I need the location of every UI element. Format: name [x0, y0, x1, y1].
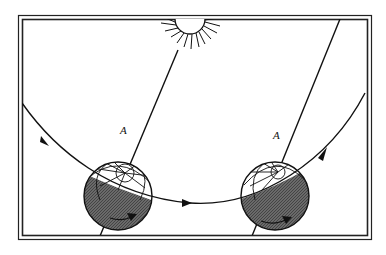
sun-icon — [161, 17, 220, 49]
orbit-arrow-bottom — [182, 199, 192, 207]
diagram-canvas: A A — [0, 0, 386, 255]
earth-orbit-diagram — [0, 0, 386, 255]
label-a-right: A — [273, 129, 280, 141]
orbit-arrow-left — [40, 136, 49, 146]
label-a-left: A — [120, 124, 127, 136]
orbit-path — [22, 93, 365, 203]
double-frame — [19, 16, 372, 240]
globe-left — [80, 160, 160, 240]
globe-right — [238, 159, 312, 240]
